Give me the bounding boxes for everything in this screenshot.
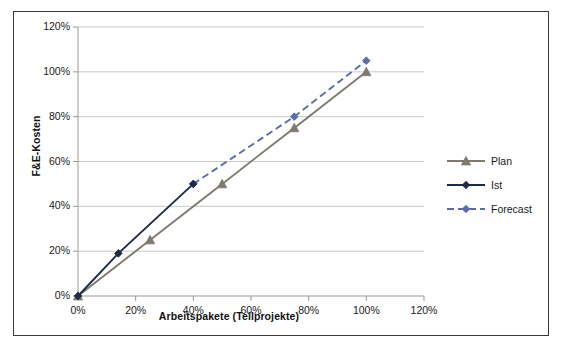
- x-tick-label: 0%: [53, 304, 103, 316]
- y-tick-label: 80%: [26, 110, 70, 122]
- series-line: [193, 61, 366, 184]
- x-tick-label: 40%: [168, 304, 218, 316]
- legend-label-forecast: Forecast: [491, 203, 532, 215]
- x-tick-label: 100%: [341, 304, 391, 316]
- chart-frame: F&E-Kosten Arbeitspakete (Teilprojekte) …: [13, 11, 549, 336]
- y-tick-label: 20%: [26, 244, 70, 256]
- series-line: [78, 184, 193, 296]
- x-tick-label: 60%: [226, 304, 276, 316]
- x-tick-label: 80%: [284, 304, 334, 316]
- series-forecast: [190, 57, 371, 188]
- y-tick-label: 100%: [26, 65, 70, 77]
- legend-swatch-plan: [446, 154, 486, 168]
- legend-label-ist: Ist: [491, 179, 502, 191]
- series-plan: [73, 67, 371, 300]
- series-ist: [74, 180, 197, 300]
- x-tick-label: 20%: [111, 304, 161, 316]
- y-tick-label: 40%: [26, 199, 70, 211]
- legend-swatch-forecast: [446, 202, 486, 216]
- x-tick-label: 120%: [399, 304, 449, 316]
- data-point-marker: [363, 57, 371, 65]
- legend-item-forecast[interactable]: Forecast: [446, 197, 546, 221]
- y-tick-label: 120%: [26, 20, 70, 32]
- data-point-marker: [462, 205, 470, 213]
- y-tick-label: 0%: [26, 289, 70, 301]
- legend-item-ist[interactable]: Ist: [446, 173, 546, 197]
- legend-item-plan[interactable]: Plan: [446, 149, 546, 173]
- chart-legend: Plan Ist Forecast: [446, 149, 546, 221]
- legend-label-plan: Plan: [491, 155, 512, 167]
- legend-swatch-ist: [446, 178, 486, 192]
- y-tick-label: 60%: [26, 155, 70, 167]
- data-point-marker: [462, 181, 470, 189]
